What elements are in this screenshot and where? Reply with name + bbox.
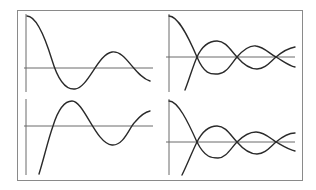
panel-top-left xyxy=(24,14,153,92)
lower-envelope-curve xyxy=(182,126,295,175)
damped-cosine-curve xyxy=(27,16,150,89)
panel-bottom-left xyxy=(24,99,153,175)
upper-envelope-curve xyxy=(169,16,295,74)
figure-frame xyxy=(18,11,303,181)
panel-bottom-right xyxy=(166,99,295,175)
figure-canvas xyxy=(0,0,316,190)
upper-envelope-curve xyxy=(169,101,295,158)
damped-sine-curve xyxy=(39,101,150,174)
panel-top-right xyxy=(166,14,295,92)
